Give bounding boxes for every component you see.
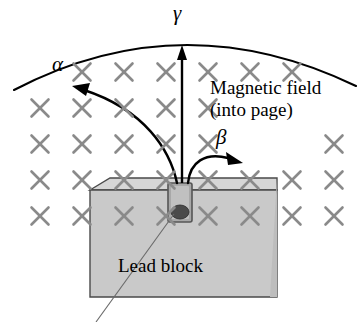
field-mark-x-icon xyxy=(326,208,343,225)
field-mark-x-icon xyxy=(158,64,175,81)
field-mark-x-icon xyxy=(284,208,301,225)
field-mark-x-icon xyxy=(74,208,91,225)
alpha-label: α xyxy=(52,53,63,75)
field-mark-x-icon xyxy=(158,100,175,117)
field-mark-x-icon xyxy=(284,172,301,189)
field-mark-x-icon xyxy=(116,136,133,153)
field-mark-x-icon xyxy=(74,100,91,117)
magnetic-field-label-line2: (into page) xyxy=(210,100,293,120)
field-mark-x-icon xyxy=(32,172,49,189)
field-mark-x-icon xyxy=(74,172,91,189)
field-mark-x-icon xyxy=(74,136,91,153)
field-mark-x-icon xyxy=(116,64,133,81)
alpha-ray-arrowhead xyxy=(72,83,90,96)
beta-ray-arrowhead xyxy=(226,152,243,165)
physics-diagram: α γ β Magnetic field (into page) Lead bl… xyxy=(0,0,361,322)
gamma-ray-arrowhead xyxy=(177,45,187,60)
field-mark-x-icon xyxy=(32,208,49,225)
beta-label: β xyxy=(216,126,226,148)
magnetic-field-label-line1: Magnetic field xyxy=(210,78,321,98)
field-mark-x-icon xyxy=(32,136,49,153)
field-mark-x-icon xyxy=(32,100,49,117)
lead-block-label: Lead block xyxy=(118,256,203,276)
gamma-label: γ xyxy=(173,2,181,24)
field-mark-x-icon xyxy=(116,100,133,117)
field-mark-x-icon xyxy=(74,64,91,81)
field-mark-x-icon xyxy=(200,136,217,153)
field-mark-x-icon xyxy=(326,172,343,189)
field-mark-x-icon xyxy=(326,136,343,153)
